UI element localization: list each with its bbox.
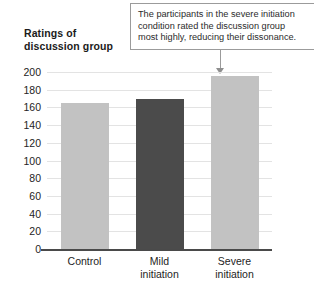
annotation-callout-box: The participants in the severe initiatio…: [130, 3, 314, 50]
y-tick-label-100: 100: [7, 156, 41, 166]
y-axis-title-line-1: Ratings of: [24, 27, 134, 40]
y-tick-label-120: 120: [7, 138, 41, 148]
y-tick-label-180: 180: [7, 85, 41, 95]
x-axis-tick-labels: ControlMildinitiationSevereinitiation: [47, 255, 272, 291]
annotation-line-3: most highly, reducing their dissonance.: [138, 32, 309, 44]
x-tick-label-line: initiation: [197, 268, 272, 281]
bar-mild-initiation: [136, 99, 184, 249]
y-tick-label-20: 20: [7, 226, 41, 236]
y-axis-title-line-2: discussion group: [24, 40, 134, 53]
x-tick-label-line: Control: [47, 255, 122, 268]
annotation-line-2: condition rated the discussion group: [138, 21, 309, 33]
y-axis-tick-labels: 200180160140120100806040200: [3, 72, 41, 252]
y-tick-label-40: 40: [7, 209, 41, 219]
x-tick-label-mild-initiation: Mildinitiation: [122, 255, 197, 281]
x-tick-label-line: Severe: [197, 255, 272, 268]
annotation-leader-line: [220, 50, 221, 70]
y-tick-label-80: 80: [7, 173, 41, 183]
y-tick-label-140: 140: [7, 120, 41, 130]
x-tick-label-control: Control: [47, 255, 122, 268]
annotation-line-1: The participants in the severe initiatio…: [138, 9, 309, 21]
x-tick-label-line: Mild: [122, 255, 197, 268]
bar-severe-initiation: [211, 76, 259, 249]
x-tick-label-severe-initiation: Severeinitiation: [197, 255, 272, 281]
bar-series: [47, 72, 272, 249]
bar-chart-figure: Ratings of discussion group The particip…: [0, 0, 314, 293]
y-tick-label-0: 0: [7, 244, 41, 254]
y-tick-label-160: 160: [7, 102, 41, 112]
y-tick-label-60: 60: [7, 191, 41, 201]
x-tick-label-line: initiation: [122, 268, 197, 281]
y-axis-title: Ratings of discussion group: [24, 27, 134, 53]
x-axis-line: [41, 249, 272, 251]
y-tick-label-200: 200: [7, 67, 41, 77]
bar-control: [61, 103, 109, 249]
